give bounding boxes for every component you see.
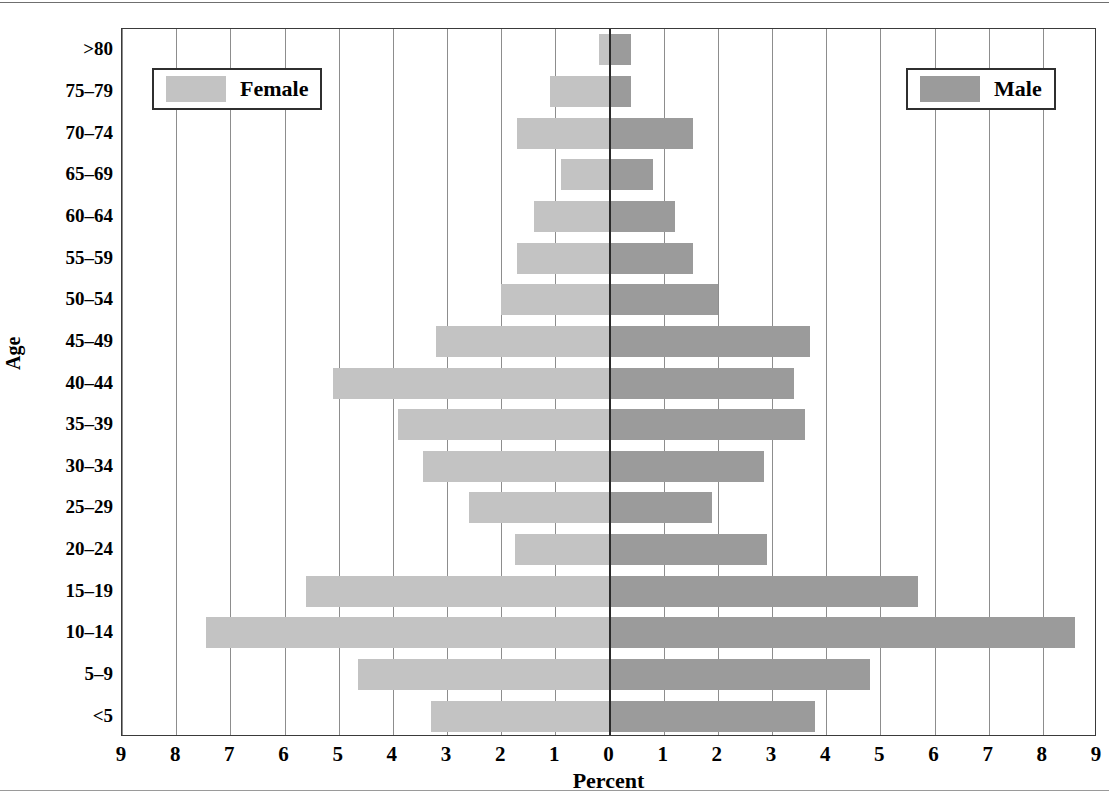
bar-female xyxy=(534,201,610,232)
y-axis-tick-label: 65–69 xyxy=(1,164,113,183)
y-axis-tick-label: 40–44 xyxy=(1,373,113,392)
x-axis-tick-label: 8 xyxy=(1022,742,1062,767)
bar-male xyxy=(610,159,653,190)
y-axis-tick-label: 10–14 xyxy=(1,622,113,641)
x-axis-tick-label: 1 xyxy=(643,742,683,767)
bar-male xyxy=(610,201,675,232)
x-axis-tick-label: 8 xyxy=(155,742,195,767)
bar-female xyxy=(436,326,609,357)
y-axis-tick-label: 70–74 xyxy=(1,123,113,142)
bar-male xyxy=(610,243,694,274)
x-axis-tick-label: 4 xyxy=(805,742,845,767)
y-axis-tick-label: 50–54 xyxy=(1,289,113,308)
bar-female xyxy=(306,576,609,607)
y-axis-tick-label: 20–24 xyxy=(1,539,113,558)
bar-male xyxy=(610,617,1076,648)
y-axis-title: Age xyxy=(2,337,25,370)
y-axis-tick-label: 15–19 xyxy=(1,581,113,600)
bar-male xyxy=(610,701,816,732)
bar-male xyxy=(610,659,870,690)
x-axis-tick-label: 5 xyxy=(318,742,358,767)
population-pyramid-figure: <55–910–1415–1920–2425–2930–3435–3940–44… xyxy=(0,0,1109,812)
y-axis-tick-label: >80 xyxy=(1,39,113,58)
x-axis-tick-label: 6 xyxy=(914,742,954,767)
gridline xyxy=(122,29,123,735)
bar-male xyxy=(610,409,805,440)
bar-male xyxy=(610,34,632,65)
bar-male xyxy=(610,118,694,149)
x-axis-tick-label: 7 xyxy=(209,742,249,767)
x-axis-tick-label: 2 xyxy=(480,742,520,767)
x-axis-title: Percent xyxy=(121,768,1096,794)
x-axis-tick-label: 9 xyxy=(1076,742,1109,767)
bar-female xyxy=(333,368,609,399)
bar-female xyxy=(206,617,610,648)
y-axis-tick-label: 75–79 xyxy=(1,81,113,100)
x-axis-tick-label: 7 xyxy=(968,742,1008,767)
bar-male xyxy=(610,534,767,565)
x-axis-tick-label: 3 xyxy=(426,742,466,767)
bar-male xyxy=(610,576,919,607)
bar-female xyxy=(515,534,610,565)
bar-female xyxy=(431,701,610,732)
x-axis-tick-label: 9 xyxy=(101,742,141,767)
bar-female xyxy=(561,159,610,190)
legend-female-label: Female xyxy=(240,76,308,102)
y-axis-tick-label: 55–59 xyxy=(1,248,113,267)
x-axis-tick-labels: 9876543210123456789 xyxy=(121,742,1096,770)
bar-male xyxy=(610,326,810,357)
bar-female xyxy=(501,284,609,315)
legend-male-label: Male xyxy=(994,76,1042,102)
x-axis-tick-label: 2 xyxy=(697,742,737,767)
y-axis-tick-label: 25–29 xyxy=(1,497,113,516)
bar-male xyxy=(610,492,713,523)
x-axis-tick-label: 6 xyxy=(264,742,304,767)
x-axis-tick-label: 4 xyxy=(372,742,412,767)
legend-female-swatch-icon xyxy=(166,76,226,102)
legend-male: Male xyxy=(906,68,1056,110)
bar-male xyxy=(610,451,764,482)
top-divider-rule xyxy=(0,2,1109,3)
x-axis-tick-label: 5 xyxy=(859,742,899,767)
x-axis-tick-label: 0 xyxy=(589,742,629,767)
y-axis-tick-label: 30–34 xyxy=(1,456,113,475)
x-axis-tick-label: 1 xyxy=(534,742,574,767)
zero-axis-line xyxy=(609,29,611,735)
y-axis-tick-label: 5–9 xyxy=(1,664,113,683)
gridline xyxy=(176,29,177,735)
bar-female xyxy=(358,659,610,690)
bar-female xyxy=(469,492,610,523)
bar-female xyxy=(550,76,610,107)
y-axis-tick-label: 35–39 xyxy=(1,414,113,433)
plot-area xyxy=(121,28,1096,736)
bar-male xyxy=(610,368,794,399)
y-axis-tick-label: 60–64 xyxy=(1,206,113,225)
bar-male xyxy=(610,76,632,107)
bar-female xyxy=(517,243,609,274)
y-axis-tick-label: <5 xyxy=(1,706,113,725)
legend-male-swatch-icon xyxy=(920,76,980,102)
bar-female xyxy=(423,451,610,482)
legend-female: Female xyxy=(152,68,322,110)
bar-male xyxy=(610,284,718,315)
x-axis-tick-label: 3 xyxy=(751,742,791,767)
bar-female xyxy=(398,409,609,440)
y-axis-tick-labels: <55–910–1415–1920–2425–2930–3435–3940–44… xyxy=(0,28,113,736)
bar-female xyxy=(517,118,609,149)
